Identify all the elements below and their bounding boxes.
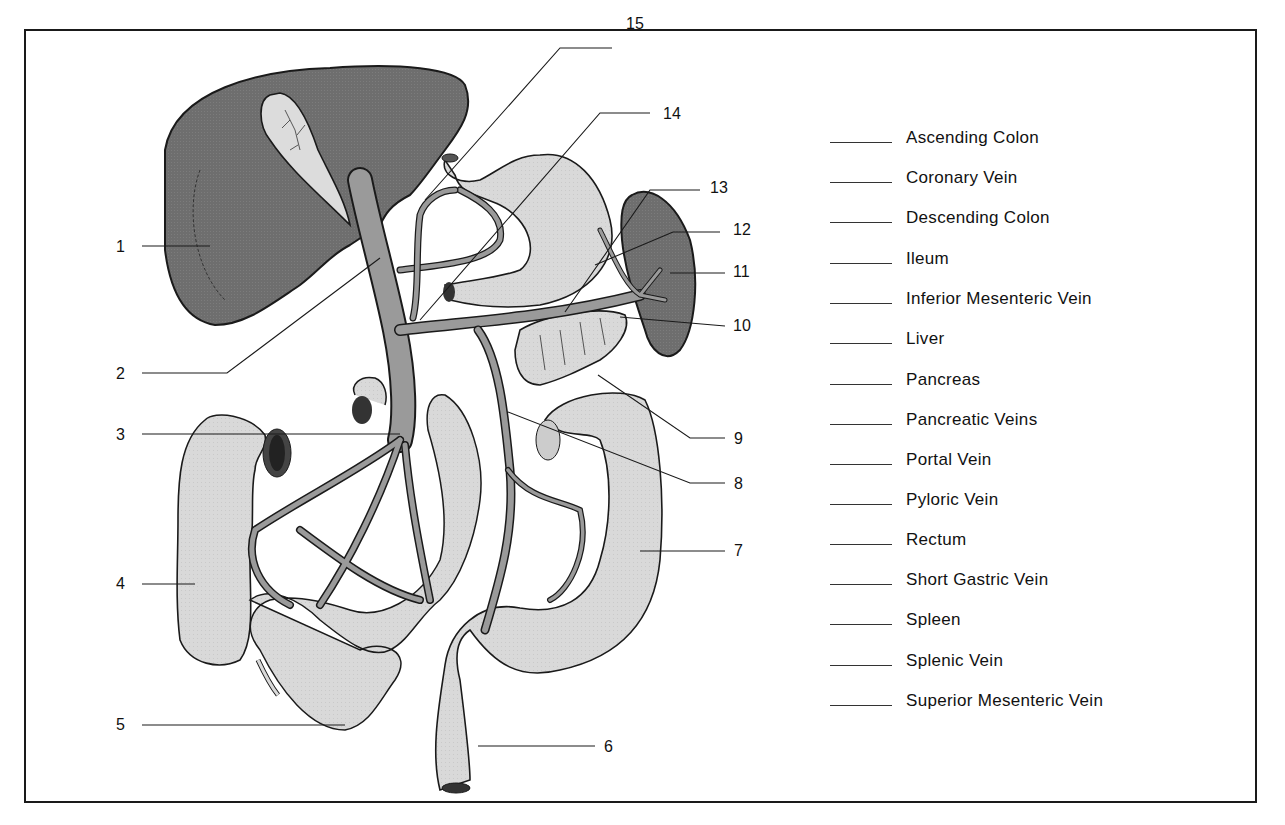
- key-item-liver: Liver: [830, 329, 1250, 351]
- answer-blank[interactable]: [830, 384, 892, 385]
- answer-blank[interactable]: [830, 182, 892, 183]
- key-label: Splenic Vein: [906, 651, 1003, 671]
- key-item-pyloric-vein: Pyloric Vein: [830, 490, 1250, 512]
- answer-blank[interactable]: [830, 464, 892, 465]
- answer-blank[interactable]: [830, 544, 892, 545]
- key-item-splenic-vein: Splenic Vein: [830, 651, 1250, 673]
- callout-3: 3: [116, 427, 125, 443]
- key-item-pancreatic-veins: Pancreatic Veins: [830, 410, 1250, 432]
- key-label: Coronary Vein: [906, 168, 1018, 188]
- answer-blank[interactable]: [830, 665, 892, 666]
- callout-15: 15: [626, 16, 644, 32]
- answer-blank[interactable]: [830, 705, 892, 706]
- callout-5: 5: [116, 717, 125, 733]
- key-item-short-gastric-vein: Short Gastric Vein: [830, 570, 1250, 592]
- stomach: [442, 154, 612, 307]
- key-label: Ileum: [906, 249, 949, 269]
- key-item-spleen: Spleen: [830, 610, 1250, 632]
- key-label: Portal Vein: [906, 450, 992, 470]
- key-item-superior-mesenteric-vein: Superior Mesenteric Vein: [830, 691, 1250, 713]
- answer-blank[interactable]: [830, 424, 892, 425]
- callout-8: 8: [734, 476, 743, 492]
- key-item-rectum: Rectum: [830, 530, 1250, 552]
- key-label: Pancreatic Veins: [906, 410, 1037, 430]
- answer-blank[interactable]: [830, 222, 892, 223]
- answer-blank[interactable]: [830, 343, 892, 344]
- answer-blank[interactable]: [830, 584, 892, 585]
- key-label: Spleen: [906, 610, 961, 630]
- key-label: Short Gastric Vein: [906, 570, 1048, 590]
- callout-1: 1: [116, 239, 125, 255]
- key-item-descending-colon: Descending Colon: [830, 208, 1250, 230]
- key-label: Descending Colon: [906, 208, 1050, 228]
- callout-11: 11: [733, 264, 750, 280]
- callout-14: 14: [663, 106, 681, 122]
- key-label: Ascending Colon: [906, 128, 1039, 148]
- key-item-inferior-mesenteric-vein: Inferior Mesenteric Vein: [830, 289, 1250, 311]
- answer-blank[interactable]: [830, 142, 892, 143]
- callout-4: 4: [116, 576, 125, 592]
- key-label: Pancreas: [906, 370, 980, 390]
- key-item-portal-vein: Portal Vein: [830, 450, 1250, 472]
- answer-blank[interactable]: [830, 303, 892, 304]
- key-label: Superior Mesenteric Vein: [906, 691, 1103, 711]
- answer-blank[interactable]: [830, 504, 892, 505]
- key-label: Liver: [906, 329, 944, 349]
- key-item-coronary-vein: Coronary Vein: [830, 168, 1250, 190]
- callout-7: 7: [734, 543, 743, 559]
- callout-12: 12: [733, 222, 751, 238]
- callout-13: 13: [710, 180, 728, 196]
- key-item-ileum: Ileum: [830, 249, 1250, 271]
- key-label: Pyloric Vein: [906, 490, 998, 510]
- answer-blank[interactable]: [830, 624, 892, 625]
- callout-6: 6: [604, 739, 613, 755]
- key-item-ascending-colon: Ascending Colon: [830, 128, 1250, 150]
- key-label: Inferior Mesenteric Vein: [906, 289, 1092, 309]
- answer-blank[interactable]: [830, 263, 892, 264]
- callout-2: 2: [116, 366, 125, 382]
- callout-10: 10: [733, 318, 751, 334]
- pancreas: [515, 311, 627, 385]
- key-label: Rectum: [906, 530, 966, 550]
- callout-9: 9: [734, 431, 743, 447]
- liver: [165, 66, 468, 325]
- key-item-pancreas: Pancreas: [830, 370, 1250, 392]
